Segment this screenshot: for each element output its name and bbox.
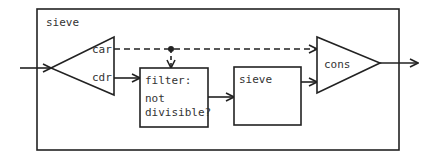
car-label: car [92, 43, 112, 56]
cdr-label: cdr [92, 71, 112, 84]
filter-line-3: divisible? [145, 106, 211, 119]
outer-sieve-label: sieve [46, 16, 79, 29]
cons-label: cons [324, 58, 351, 71]
filter-line-2: not [145, 92, 165, 105]
filter-line-1: filter: [145, 74, 191, 87]
inner-sieve-label: sieve [239, 73, 272, 86]
sieve-diagram: sieve car cdr filter: not divisible? sie… [0, 0, 441, 162]
